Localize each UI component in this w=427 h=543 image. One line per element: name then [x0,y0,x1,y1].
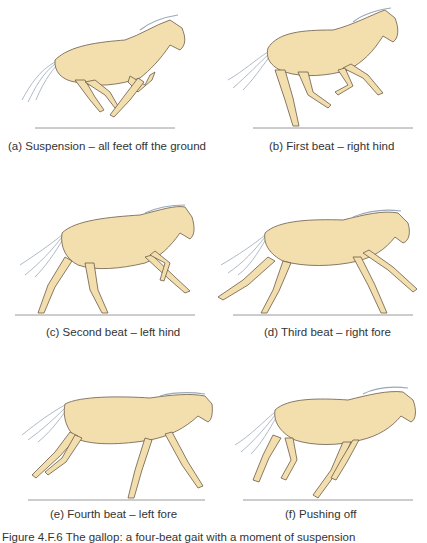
horse-body [275,392,416,445]
panel-f: (f) Pushing off [213,380,426,530]
caption-a: (a) Suspension – all feet off the ground [8,140,206,152]
horse-body [267,10,397,76]
figure-caption: Figure 4.F.6 The gallop: a four-beat gai… [2,531,355,543]
horse-body [55,20,185,85]
horse-illustration-third-beat [213,195,427,320]
tail [228,52,270,90]
panel-d: (d) Third beat – right fore [213,195,426,355]
panel-e: (e) Fourth beat – left fore [0,390,213,530]
horse-body [265,212,410,265]
panel-a: (a) Suspension – all feet off the ground [0,0,213,160]
caption-f: (f) Pushing off [285,508,356,520]
panel-b: (b) First beat – right hind [213,0,426,160]
horse-illustration-first-beat [213,0,427,135]
tail [22,62,56,102]
legs [253,435,359,498]
caption-e: (e) Fourth beat – left fore [50,508,177,520]
horse-body [64,395,212,444]
tail [22,405,67,442]
horse-illustration-fourth-beat [0,390,213,505]
caption-c: (c) Second beat – left hind [46,326,180,338]
horse-illustration-suspension [0,0,213,135]
horse-body [62,207,194,269]
horse-illustration-second-beat [0,195,213,320]
horse-illustration-pushing-off [213,380,427,505]
panel-c: (c) Second beat – left hind [0,195,213,355]
caption-d: (d) Third beat – right fore [264,326,391,338]
caption-b: (b) First beat – right hind [269,140,394,152]
